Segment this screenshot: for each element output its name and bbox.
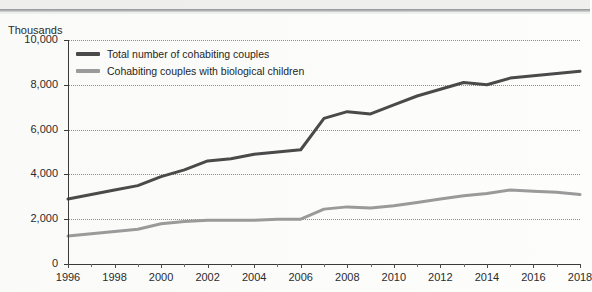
x-tick-mark-minor: [324, 264, 325, 267]
chart-legend: Total number of cohabiting couples Cohab…: [76, 48, 304, 77]
x-tick-mark: [347, 264, 348, 268]
y-tick-label: 2,000: [0, 212, 58, 224]
x-tick-label: 2008: [335, 271, 359, 283]
legend-label-with-children: Cohabiting couples with biological child…: [107, 65, 304, 77]
x-tick-mark-minor: [231, 264, 232, 267]
x-tick-mark: [533, 264, 534, 268]
x-tick-label: 2000: [149, 271, 173, 283]
x-axis-ticks: 1996199820002002200420062008201020122014…: [68, 264, 580, 292]
x-tick-label: 2016: [521, 271, 545, 283]
x-tick-label: 2006: [288, 271, 312, 283]
y-tick-mark: [64, 85, 68, 86]
y-tick-mark: [64, 219, 68, 220]
x-tick-mark: [115, 264, 116, 268]
x-tick-mark: [440, 264, 441, 268]
x-tick-mark-minor: [91, 264, 92, 267]
x-tick-label: 2004: [242, 271, 266, 283]
y-axis-line: [68, 40, 69, 264]
x-tick-mark: [254, 264, 255, 268]
x-tick-mark-minor: [510, 264, 511, 267]
x-tick-mark: [394, 264, 395, 268]
x-tick-mark-minor: [371, 264, 372, 267]
y-tick-label: 10,000: [0, 33, 58, 45]
x-tick-label: 2010: [382, 271, 406, 283]
y-tick-mark: [64, 40, 68, 41]
legend-item-with-children: Cohabiting couples with biological child…: [76, 65, 304, 77]
x-tick-label: 2014: [475, 271, 499, 283]
x-tick-mark: [208, 264, 209, 268]
legend-swatch-total: [76, 52, 100, 56]
series-line-0: [68, 71, 580, 199]
y-tick-label: 4,000: [0, 167, 58, 179]
y-tick-label: 8,000: [0, 78, 58, 90]
x-tick-mark-minor: [277, 264, 278, 267]
x-tick-mark: [487, 264, 488, 268]
x-tick-label: 1996: [56, 271, 80, 283]
x-tick-mark-minor: [417, 264, 418, 267]
x-tick-label: 1998: [102, 271, 126, 283]
x-tick-mark: [580, 264, 581, 268]
x-tick-mark-minor: [138, 264, 139, 267]
x-tick-label: 2018: [568, 271, 592, 283]
x-tick-mark: [301, 264, 302, 268]
y-tick-label: 6,000: [0, 123, 58, 135]
x-tick-mark: [161, 264, 162, 268]
x-tick-mark-minor: [464, 264, 465, 267]
y-tick-label: 0: [0, 257, 58, 269]
series-line-1: [68, 190, 580, 236]
legend-item-total: Total number of cohabiting couples: [76, 48, 304, 60]
legend-swatch-with-children: [76, 69, 100, 73]
x-tick-label: 2012: [428, 271, 452, 283]
y-tick-mark: [64, 174, 68, 175]
x-tick-label: 2002: [195, 271, 219, 283]
x-tick-mark: [68, 264, 69, 268]
legend-label-total: Total number of cohabiting couples: [107, 48, 269, 60]
x-tick-mark-minor: [557, 264, 558, 267]
x-tick-mark-minor: [184, 264, 185, 267]
y-tick-mark: [64, 130, 68, 131]
